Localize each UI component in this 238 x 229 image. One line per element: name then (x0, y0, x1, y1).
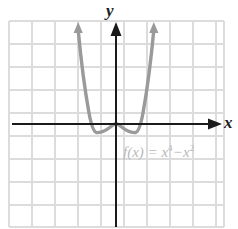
y-axis-arrowhead (111, 22, 122, 36)
y-axis-label: y (106, 2, 114, 19)
x-axis-label: x (224, 114, 233, 131)
curve-arrow-right (149, 22, 158, 33)
equation-exponent-2: 2 (190, 143, 195, 153)
equation-exponent-1: 4 (168, 143, 173, 153)
coordinate-axes (12, 22, 222, 227)
function-equation-label: f(x) = x4−x2 (123, 145, 194, 160)
graph-figure: y x f(x) = x4−x2 (0, 0, 238, 229)
equation-variable-2: x (183, 144, 190, 160)
x-axis-arrowhead (208, 119, 222, 130)
graph-canvas (0, 0, 238, 229)
equation-operator: − (173, 144, 183, 160)
curve-arrow-left (74, 22, 83, 33)
equation-prefix: f(x) = x (123, 144, 168, 160)
